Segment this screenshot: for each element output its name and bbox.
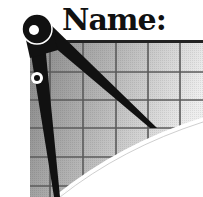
name-label: Name: (62, 2, 166, 38)
compass-grid-logo: Name: (0, 0, 203, 197)
